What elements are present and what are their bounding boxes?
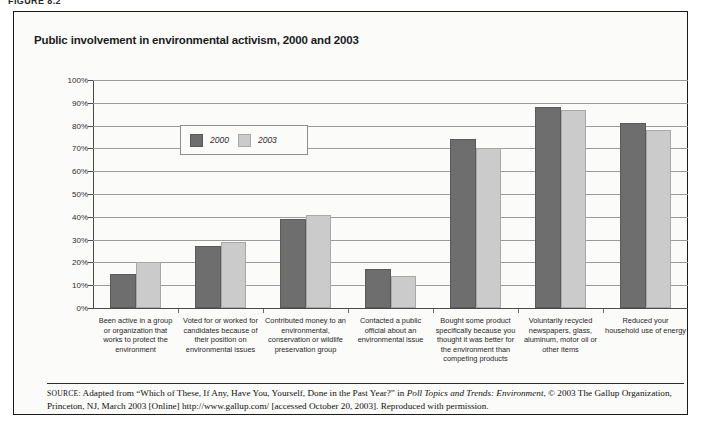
y-tick-mark <box>88 171 93 172</box>
gridline <box>93 103 688 104</box>
y-tick-mark <box>88 285 93 286</box>
y-tick-label: 0% <box>76 304 88 313</box>
legend-item-2003: 2003 <box>229 134 277 147</box>
y-tick-mark <box>88 217 93 218</box>
source-publication-title: Poll Topics and Trends: Environment <box>407 388 544 398</box>
x-tick-mark <box>518 309 519 313</box>
y-tick-mark <box>88 103 93 104</box>
legend-item-2000: 2000 <box>181 134 229 147</box>
y-tick-mark <box>88 80 93 81</box>
source-prefix: SOURCE: <box>47 389 81 398</box>
bar-2000-3 <box>365 269 391 308</box>
legend-label-2003: 2003 <box>258 135 277 145</box>
x-axis-line <box>93 308 688 309</box>
bar-2003-5 <box>561 110 587 308</box>
x-axis-label-5: Voluntarily recycled newspapers, glass, … <box>518 313 603 375</box>
chart-title: Public involvement in environmental acti… <box>34 34 359 46</box>
y-tick-label: 10% <box>72 281 88 290</box>
bar-2003-2 <box>306 215 332 308</box>
bar-2003-0 <box>136 262 162 308</box>
bar-2000-5 <box>535 107 561 308</box>
legend-swatch-2000 <box>190 134 203 147</box>
gridline <box>93 217 688 218</box>
gridline <box>93 171 688 172</box>
gridline <box>93 194 688 195</box>
figure-label: FIGURE 8.2 <box>8 0 61 6</box>
y-tick-label: 80% <box>72 121 88 130</box>
legend-swatch-2003 <box>238 134 251 147</box>
y-tick-mark <box>88 126 93 127</box>
gridline <box>93 240 688 241</box>
bar-2003-4 <box>476 148 502 308</box>
x-axis-labels: Been active in a group or organization t… <box>93 313 688 375</box>
y-tick-mark <box>88 308 93 309</box>
gridline <box>93 262 688 263</box>
x-tick-mark <box>603 309 604 313</box>
bar-2000-1 <box>195 246 221 308</box>
y-tick-label: 90% <box>72 98 88 107</box>
bar-2003-3 <box>391 276 417 308</box>
source-divider <box>47 383 684 384</box>
source-text-part1: Adapted from “Which of These, If Any, Ha… <box>81 388 407 398</box>
y-tick-label: 50% <box>72 190 88 199</box>
plot-area <box>93 80 688 308</box>
bar-2003-6 <box>646 130 672 308</box>
x-axis-label-2: Contributed money to an environmental, c… <box>263 313 348 375</box>
y-tick-label: 60% <box>72 167 88 176</box>
bar-2000-4 <box>450 139 476 308</box>
x-tick-mark <box>263 309 264 313</box>
x-axis-label-4: Bought some product specifically because… <box>433 313 518 375</box>
y-axis-labels: 100%90%80%70%60%50%40%30%20%10%0% <box>36 80 88 309</box>
x-tick-mark <box>348 309 349 313</box>
bar-2000-0 <box>110 274 136 308</box>
x-axis-label-3: Contacted a public official about an env… <box>348 313 433 375</box>
y-tick-label: 40% <box>72 212 88 221</box>
y-tick-mark <box>88 262 93 263</box>
x-axis-label-0: Been active in a group or organization t… <box>93 313 178 375</box>
x-tick-mark <box>178 309 179 313</box>
chart-legend: 2000 2003 <box>180 125 308 155</box>
x-tick-mark <box>433 309 434 313</box>
bar-2003-1 <box>221 242 247 308</box>
figure-frame: Public involvement in environmental acti… <box>13 11 688 415</box>
y-tick-label: 20% <box>72 258 88 267</box>
gridline <box>93 80 688 81</box>
y-tick-label: 70% <box>72 144 88 153</box>
y-tick-mark <box>88 240 93 241</box>
bar-2000-2 <box>280 219 306 308</box>
x-axis-label-1: Voted for or worked for candidates becau… <box>178 313 263 375</box>
y-tick-mark <box>88 148 93 149</box>
x-axis-label-6: Reduced your household use of energy <box>603 313 688 375</box>
y-tick-label: 100% <box>68 76 88 85</box>
source-note: SOURCE: Adapted from “Which of These, If… <box>47 387 687 412</box>
bar-2000-6 <box>620 123 646 308</box>
legend-label-2000: 2000 <box>210 135 229 145</box>
y-tick-mark <box>88 194 93 195</box>
y-tick-label: 30% <box>72 235 88 244</box>
